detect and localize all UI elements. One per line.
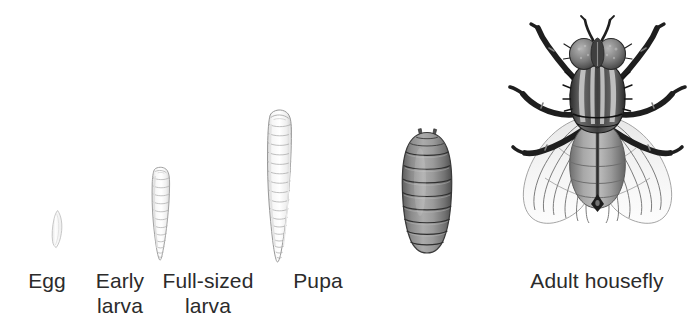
caption-full-sized-larva: Full-sizedlarva — [133, 268, 283, 318]
housefly-adult-icon — [505, 14, 690, 250]
housefly-egg-icon — [44, 206, 74, 254]
housefly-full-sized-larva-icon — [252, 104, 308, 266]
caption-adult-housefly: Adult housefly — [487, 268, 700, 293]
head — [564, 16, 633, 70]
housefly-early-larva-icon — [138, 162, 184, 266]
caption-pupa: Pupa — [268, 268, 368, 293]
antennae — [581, 16, 614, 40]
housefly-life-cycle-figure: Egg — [0, 0, 700, 333]
housefly-pupa-icon — [396, 124, 458, 256]
